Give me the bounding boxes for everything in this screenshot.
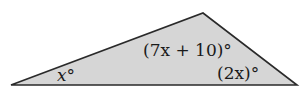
angle-label-right: (2x)°: [217, 63, 259, 83]
angle-label-left: x°: [57, 65, 75, 85]
angle-label-apex: (7x + 10)°: [143, 40, 232, 60]
triangle-diagram: x° (7x + 10)° (2x)°: [0, 0, 300, 97]
